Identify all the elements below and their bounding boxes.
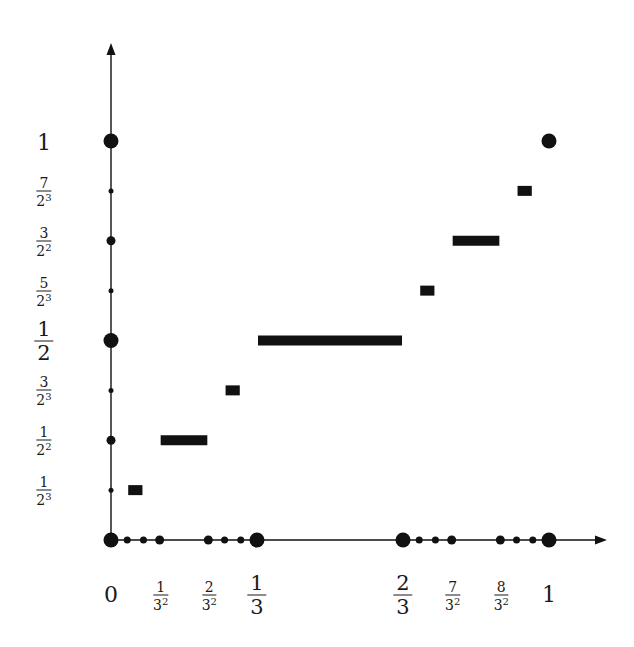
denominator: 32 (153, 596, 168, 612)
step-bar (420, 286, 434, 296)
x-axis-dot (542, 533, 557, 548)
y-tick-label: 323 (36, 374, 51, 407)
numerator: 2 (393, 573, 412, 596)
y-tick-label: 12 (34, 318, 53, 363)
x-axis-dot (496, 536, 505, 545)
step-bars (128, 186, 532, 495)
exponent: 3 (45, 391, 51, 402)
step-bar (226, 385, 240, 395)
denominator: 32 (202, 596, 217, 612)
axes (107, 43, 608, 545)
exponent: 2 (503, 596, 509, 607)
y-tick-label: 1 (37, 132, 51, 154)
x-axis-dot (416, 537, 423, 544)
exponent: 3 (45, 491, 51, 502)
denominator: 23 (36, 191, 51, 207)
y-tick-label: 123 (36, 474, 51, 507)
numerator: 1 (37, 475, 52, 491)
y-axis-dot (109, 488, 114, 493)
fraction: 12 (34, 318, 53, 363)
x-axis-dot (221, 537, 228, 544)
x-axis-dot (513, 537, 520, 544)
x-axis-dot (249, 533, 264, 548)
denominator: 22 (36, 441, 51, 457)
denominator: 3 (250, 596, 263, 618)
fraction: 523 (36, 275, 51, 307)
numerator: 1 (37, 425, 52, 441)
y-axis-dot (107, 236, 116, 245)
numerator: 7 (37, 175, 52, 191)
denominator: 22 (36, 241, 51, 257)
numerator: 1 (247, 573, 266, 596)
fraction: 323 (36, 375, 51, 407)
denominator: 2 (37, 341, 50, 363)
x-tick-label: 0 (104, 584, 118, 606)
fraction: 723 (36, 175, 51, 207)
denominator: 32 (494, 596, 509, 612)
denominator: 23 (36, 291, 51, 307)
x-tick-label: 23 (393, 573, 412, 618)
cantor-function-diagram (0, 0, 634, 647)
denominator: 3 (396, 596, 409, 618)
y-axis-dot (104, 333, 119, 348)
numerator: 7 (445, 580, 460, 596)
fraction: 732 (445, 580, 460, 612)
x-axis-dot (529, 537, 536, 544)
fraction: 13 (247, 573, 266, 618)
step-bar (258, 336, 402, 346)
x-axis-dot (124, 537, 131, 544)
exponent: 2 (45, 441, 51, 452)
denominator: 23 (36, 391, 51, 407)
exponent: 2 (162, 596, 168, 607)
denominator: 32 (445, 596, 460, 612)
y-tick-label: 122 (36, 424, 51, 457)
x-tick-label: 13 (247, 573, 266, 618)
x-axis-dot (396, 533, 411, 548)
y-axis-dot (109, 388, 114, 393)
y-axis-dot (109, 188, 114, 193)
y-axis-dot (107, 436, 116, 445)
y-axis-dot (109, 288, 114, 293)
x-axis-dot (140, 537, 147, 544)
x-axis-dot (204, 536, 213, 545)
numerator: 1 (153, 580, 168, 596)
y-tick-label: 322 (36, 224, 51, 257)
numerator: 8 (494, 580, 509, 596)
step-bar (453, 236, 500, 246)
y-axis-dot (104, 134, 119, 149)
y-tick-label: 723 (36, 174, 51, 207)
denominator: 23 (36, 491, 51, 507)
exponent: 2 (211, 596, 217, 607)
exponent: 2 (45, 241, 51, 252)
fraction: 132 (153, 580, 168, 612)
x-tick-label: 1 (542, 584, 556, 606)
x-axis-dot (155, 536, 164, 545)
fraction: 832 (494, 580, 509, 612)
x-axis-dot (104, 533, 119, 548)
step-bar (518, 186, 532, 196)
x-tick-label: 132 (153, 579, 168, 612)
numerator: 3 (37, 375, 52, 391)
numerator: 2 (202, 580, 217, 596)
fraction: 23 (393, 573, 412, 618)
x-tick-label: 832 (494, 579, 509, 612)
fraction: 232 (202, 580, 217, 612)
x-axis-arrow-icon (595, 536, 607, 545)
fraction: 322 (36, 225, 51, 257)
exponent: 3 (45, 191, 51, 202)
exponent: 3 (45, 291, 51, 302)
step-bar (161, 435, 208, 445)
x-tick-label: 732 (445, 579, 460, 612)
numerator: 3 (37, 225, 52, 241)
y-axis-arrow-icon (107, 43, 116, 55)
fraction: 122 (36, 425, 51, 457)
x-axis-dot (447, 536, 456, 545)
x-axis-dot (237, 537, 244, 544)
numerator: 5 (37, 275, 52, 291)
endpoint-dot (542, 134, 557, 149)
fraction: 123 (36, 475, 51, 507)
x-tick-label: 232 (202, 579, 217, 612)
step-bar (128, 485, 142, 495)
x-axis-dot (432, 537, 439, 544)
numerator: 1 (34, 318, 53, 341)
